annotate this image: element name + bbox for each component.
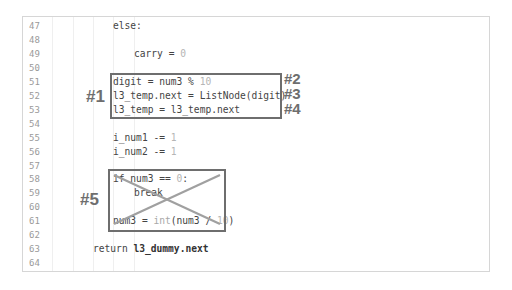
code-token: l3_dummy.next	[133, 243, 208, 254]
line-number: 63	[29, 242, 49, 256]
line-number: 50	[29, 61, 49, 75]
indent-guide	[73, 17, 74, 271]
line-number: 64	[29, 256, 49, 270]
annotation-label-3: #3	[284, 86, 301, 101]
code-line[interactable]: i_num2 -= 1	[113, 145, 177, 159]
gutter-divider	[52, 17, 53, 271]
annotation-label-4: #4	[284, 101, 301, 116]
annotation-label-1: #1	[86, 88, 105, 105]
code-token: return	[93, 243, 133, 254]
line-number: 57	[29, 159, 49, 173]
code-token: i_num1 -=	[113, 132, 171, 143]
line-number: 58	[29, 172, 49, 186]
annotation-label-2: #2	[284, 71, 301, 86]
line-number: 56	[29, 145, 49, 159]
code-token: )	[229, 215, 235, 226]
line-number: 48	[29, 33, 49, 47]
code-token: 1	[171, 132, 177, 143]
line-number: 47	[29, 19, 49, 33]
code-line[interactable]: carry = 0	[134, 47, 186, 61]
annotation-label-5: #5	[80, 191, 99, 208]
indent-guide	[93, 17, 94, 271]
line-number: 49	[29, 47, 49, 61]
highlight-box-1	[110, 73, 282, 119]
code-line[interactable]: else:	[113, 19, 142, 33]
code-line[interactable]: return l3_dummy.next	[93, 242, 209, 256]
line-number: 54	[29, 117, 49, 131]
strikethrough-cross-icon	[108, 169, 226, 232]
code-token: i_num2 -=	[113, 146, 171, 157]
line-number: 59	[29, 186, 49, 200]
code-token: 0	[180, 48, 186, 59]
code-editor-panel: 47else:4849carry = 05051digit = num3 % 1…	[22, 16, 490, 272]
code-token: else:	[113, 20, 142, 31]
line-number: 60	[29, 200, 49, 214]
line-number: 53	[29, 103, 49, 117]
code-token: carry =	[134, 48, 180, 59]
code-line[interactable]: i_num1 -= 1	[113, 131, 177, 145]
code-token: 1	[171, 146, 177, 157]
line-number: 55	[29, 131, 49, 145]
line-number: 61	[29, 214, 49, 228]
line-number: 52	[29, 89, 49, 103]
line-number: 62	[29, 228, 49, 242]
line-number: 51	[29, 75, 49, 89]
